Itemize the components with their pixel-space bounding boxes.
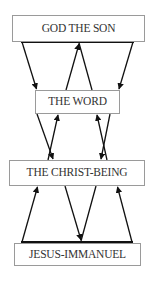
edge-son-to-word-right: [119, 42, 133, 89]
node-god-the-son: GOD THE SON: [12, 15, 145, 42]
edge-word-to-son-center-left: [66, 44, 79, 90]
node-jesus-immanuel: JESUS-IMMANUEL: [14, 243, 141, 266]
edges-layer: [0, 0, 156, 283]
edge-jesus-to-christ-left: [22, 187, 38, 242]
edge-christ-to-word-left: [48, 115, 58, 160]
node-label: GOD THE SON: [42, 23, 116, 35]
node-label: THE CHRIST-BEING: [27, 167, 128, 179]
node-label: JESUS-IMMANUEL: [29, 249, 126, 261]
node-label: THE WORD: [48, 96, 107, 108]
edge-son-to-word-left: [22, 42, 37, 89]
edge-word-to-christ-left: [37, 114, 53, 159]
node-the-christ-being: THE CHRIST-BEING: [9, 160, 145, 186]
edge-christ-to-jesus-center-right: [81, 186, 96, 241]
christology-diagram: GOD THE SON THE WORD THE CHRIST-BEING JE…: [0, 0, 156, 283]
edge-word-to-son-center-right: [79, 43, 92, 90]
edge-christ-to-jesus-center-left: [65, 186, 81, 240]
edge-jesus-to-christ-right: [118, 187, 133, 242]
node-the-word: THE WORD: [35, 90, 120, 114]
